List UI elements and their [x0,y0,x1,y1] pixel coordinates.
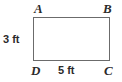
vertex-label-b: B [103,2,112,15]
vertex-label-c: C [104,64,113,77]
dimension-label-width: 5 ft [58,65,75,76]
geometry-figure: A B C D 3 ft 5 ft [0,0,122,82]
vertex-label-a: A [34,2,43,15]
vertex-label-d: D [31,64,40,77]
dimension-label-height: 3 ft [3,34,20,45]
rectangle-shape [33,17,110,61]
